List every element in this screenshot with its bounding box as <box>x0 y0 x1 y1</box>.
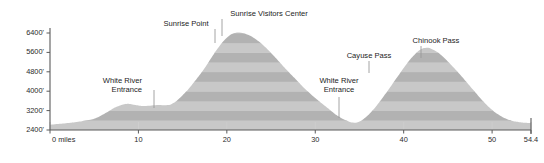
y-axis-label: 5600' <box>26 47 44 56</box>
y-axis-label: 6400' <box>26 28 44 37</box>
y-axis-label: 3200' <box>26 106 44 115</box>
x-axis-label: 20 <box>223 135 231 144</box>
elevation-band <box>48 111 533 121</box>
annotation-label: Sunrise Visitors Center <box>230 9 308 18</box>
elevation-bands <box>48 16 533 130</box>
elevation-band <box>48 101 533 111</box>
elevation-band <box>48 62 533 72</box>
annotation-label: Chinook Pass <box>413 36 460 45</box>
annotation-label-line: Cayuse Pass <box>347 51 392 60</box>
x-axis-label: 40 <box>400 135 408 144</box>
annotation-label-line: Entrance <box>112 85 142 94</box>
elevation-profile-chart: 2400'3200'4000'4800'5600'6400' 0 miles10… <box>0 0 544 163</box>
x-axis-label: 30 <box>311 135 319 144</box>
annotation-label-line: Sunrise Point <box>163 19 209 28</box>
annotation-label: Sunrise Point <box>163 19 209 28</box>
elevation-profile-svg: 2400'3200'4000'4800'5600'6400' 0 miles10… <box>0 0 544 163</box>
x-axis-label: 0 miles <box>52 135 76 144</box>
y-axis-label: 2400' <box>26 125 44 134</box>
elevation-band <box>48 23 533 33</box>
annotation-label-line: Chinook Pass <box>413 36 460 45</box>
annotation-label-line: White River <box>319 76 359 85</box>
y-axis-label: 4000' <box>26 86 44 95</box>
annotation-label: White RiverEntrance <box>319 76 359 94</box>
elevation-band <box>48 52 533 62</box>
elevation-band <box>48 43 533 53</box>
x-axis-label: 54.4 <box>524 135 538 144</box>
annotation-label: White RiverEntrance <box>103 76 143 94</box>
annotation-label-line: Entrance <box>324 85 354 94</box>
annotation-label-line: Sunrise Visitors Center <box>230 9 308 18</box>
y-axis: 2400'3200'4000'4800'5600'6400' <box>26 28 50 134</box>
x-axis-label: 50 <box>488 135 496 144</box>
elevation-band <box>48 120 533 130</box>
annotation-label-line: White River <box>103 76 143 85</box>
annotation-label: Cayuse Pass <box>347 51 392 60</box>
y-axis-label: 4800' <box>26 67 44 76</box>
x-axis-label: 10 <box>134 135 142 144</box>
elevation-band <box>48 33 533 43</box>
